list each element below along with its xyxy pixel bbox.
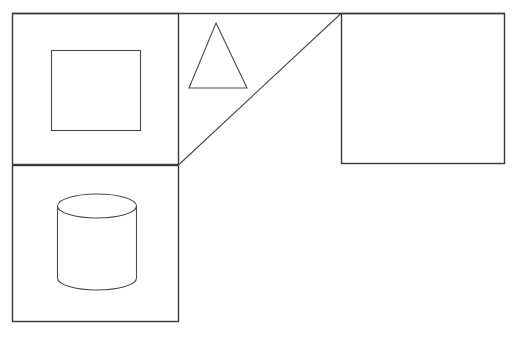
right-rectangle (342, 14, 505, 164)
drawing-canvas (0, 0, 515, 338)
cylinder-top-ellipse (58, 194, 137, 218)
inner-square (52, 51, 141, 131)
upper-left-rectangle (13, 14, 179, 165)
diagonal-line (179, 14, 342, 166)
lower-left-rectangle (13, 166, 179, 322)
triangle (189, 23, 247, 88)
figure-svg (0, 0, 515, 338)
cylinder-body (58, 206, 137, 290)
